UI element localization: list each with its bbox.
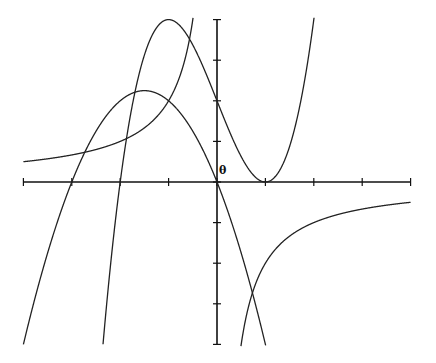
parabola-curve: [23, 91, 265, 346]
hyperbola-curve: [23, 18, 193, 162]
hyperbola-curve: [241, 202, 411, 346]
cubic-curve: [103, 18, 314, 344]
origin-label: θ: [219, 164, 226, 177]
function-plot: [0, 0, 436, 363]
